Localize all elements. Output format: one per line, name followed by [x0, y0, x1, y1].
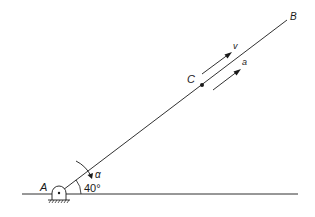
- angular-acceleration-arrow-icon: [76, 161, 93, 179]
- label-c: C: [187, 74, 195, 85]
- velocity-arrow-icon: [202, 52, 232, 74]
- label-angle: 40°: [84, 183, 101, 194]
- label-b: B: [290, 12, 297, 22]
- acceleration-arrow-icon: [213, 69, 241, 90]
- point-c-dot: [200, 83, 204, 87]
- angle-arc: [76, 180, 81, 194]
- pin-support-icon: [48, 186, 70, 203]
- rod-ab: [59, 20, 287, 193]
- label-a: a: [242, 58, 247, 67]
- diagram-canvas: B C v a α 40° A: [0, 0, 315, 217]
- label-alpha: α: [95, 170, 101, 180]
- label-a-pivot: A: [40, 182, 47, 193]
- label-v: v: [233, 42, 238, 51]
